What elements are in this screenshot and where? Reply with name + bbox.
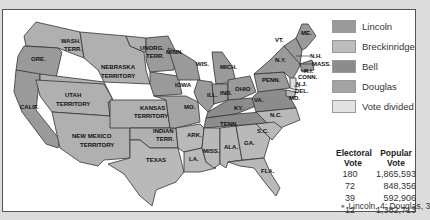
label-nebraska: NEBRASKA (101, 64, 136, 70)
label-ky: KY. (234, 105, 244, 111)
label-va: VA. (254, 97, 264, 103)
popular-vote: 848,356 (368, 180, 416, 192)
label-nj: N.J. (296, 81, 307, 87)
electoral-vote: 180 (336, 168, 364, 180)
label-ore: ORE. (31, 56, 46, 62)
footnote: ✴ Lincoln, 4; Douglas, 3 (340, 201, 430, 211)
label-md: MD. (289, 95, 300, 101)
legend-label: Douglas (362, 81, 397, 92)
legend-item-breckinridge: Breckinridge (332, 36, 415, 56)
label-sc: S.C. (257, 128, 269, 134)
swatch-lincoln (332, 20, 356, 33)
label-nebraska-territory: TERRITORY (101, 73, 135, 79)
label-minn: MINN. (166, 49, 183, 55)
label-wis: WIS. (196, 61, 209, 67)
label-tenn: TENN. (220, 121, 238, 127)
label-ohio: OHIO (235, 86, 251, 92)
legend-item-lincoln: Lincoln (332, 16, 415, 36)
region-fla (228, 158, 280, 196)
label-fla: FLA. (261, 168, 275, 174)
label-utah-territory: TERRITORY (56, 101, 90, 107)
label-unorg-terr: TERR. (146, 53, 164, 59)
swatch-breckinridge (332, 40, 356, 53)
swatch-vote-divided (332, 100, 356, 113)
legend-label: Breckinridge (362, 41, 415, 52)
legend: Lincoln Breckinridge Bell Douglas Vote d… (332, 16, 415, 116)
swatch-bell (332, 60, 356, 73)
label-ill: ILL. (207, 92, 218, 98)
results-header: Electoral Vote Popular Vote (336, 148, 416, 168)
label-kansas-territory: TERRITORY (134, 113, 168, 119)
electoral-vote: 72 (336, 180, 364, 192)
label-ga: GA. (244, 140, 255, 146)
results-row: 72 848,356 (336, 180, 416, 192)
popular-vote: 1,865,593 (368, 168, 416, 180)
label-la: LA. (189, 156, 199, 162)
label-mich: MICH. (220, 64, 237, 70)
label-new-mexico-territory: TERRITORY (80, 142, 114, 148)
label-nc: N.C. (270, 112, 282, 118)
label-iowa: IOWA (175, 82, 192, 88)
legend-item-douglas: Douglas (332, 76, 415, 96)
legend-item-vote-divided: Vote divided (332, 96, 415, 116)
label-nh: N.H. (310, 53, 322, 59)
label-kansas: KANSAS (140, 105, 165, 111)
label-penn: PENN. (262, 77, 281, 83)
label-texas: TEXAS (146, 157, 166, 163)
label-miss: MISS. (203, 148, 220, 154)
electoral-vote-header: Electoral Vote (336, 148, 370, 168)
results-row: 180 1,865,593 (336, 168, 416, 180)
label-indian: INDIAN (153, 128, 174, 134)
swatch-douglas (332, 80, 356, 93)
legend-label: Vote divided (362, 101, 414, 112)
label-ala: ALA. (224, 144, 238, 150)
label-mo: MO. (184, 104, 196, 110)
label-del: DEL. (295, 88, 309, 94)
asterisk-icon: ✴ (340, 203, 346, 210)
label-utah: UTAH (65, 92, 81, 98)
label-new-mexico: NEW MEXICO (72, 133, 112, 139)
footnote-text: Lincoln, 4; Douglas, 3 (348, 201, 430, 211)
legend-label: Lincoln (362, 21, 392, 32)
label-indian-terr: TERR. (156, 136, 174, 142)
label-mass: MASS. (312, 61, 331, 67)
legend-label: Bell (362, 61, 378, 72)
label-ny: N.Y. (275, 57, 286, 63)
label-me: ME. (301, 30, 312, 36)
label-unorg: UNORG. (140, 45, 164, 51)
popular-vote-header: Popular Vote (376, 148, 416, 168)
label-wash: WASH. (61, 38, 81, 44)
label-conn: CONN. (298, 74, 318, 80)
region-ark (176, 124, 204, 152)
label-ind: IND. (220, 90, 232, 96)
label-wash-terr: TERR. (64, 46, 82, 52)
label-vt: VT. (275, 37, 284, 43)
label-calif: CALIF. (20, 104, 39, 110)
legend-item-bell: Bell (332, 56, 415, 76)
label-ark: ARK. (187, 132, 202, 138)
